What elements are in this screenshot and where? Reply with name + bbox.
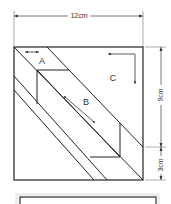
piece-c-label: C	[110, 73, 117, 83]
height-dimension: 9cm 3cm	[145, 47, 166, 180]
piece-a-label: A	[39, 56, 45, 66]
next-diagram-frame	[16, 194, 159, 204]
height-upper-label: 9cm	[157, 88, 164, 101]
piece-b-label: B	[83, 97, 89, 107]
width-label: 12cm	[70, 12, 87, 19]
width-dimension: 12cm	[14, 11, 143, 47]
height-lower-label: 3cm	[157, 158, 164, 171]
block-diagram: 12cm 9cm 3cm A	[0, 0, 171, 204]
